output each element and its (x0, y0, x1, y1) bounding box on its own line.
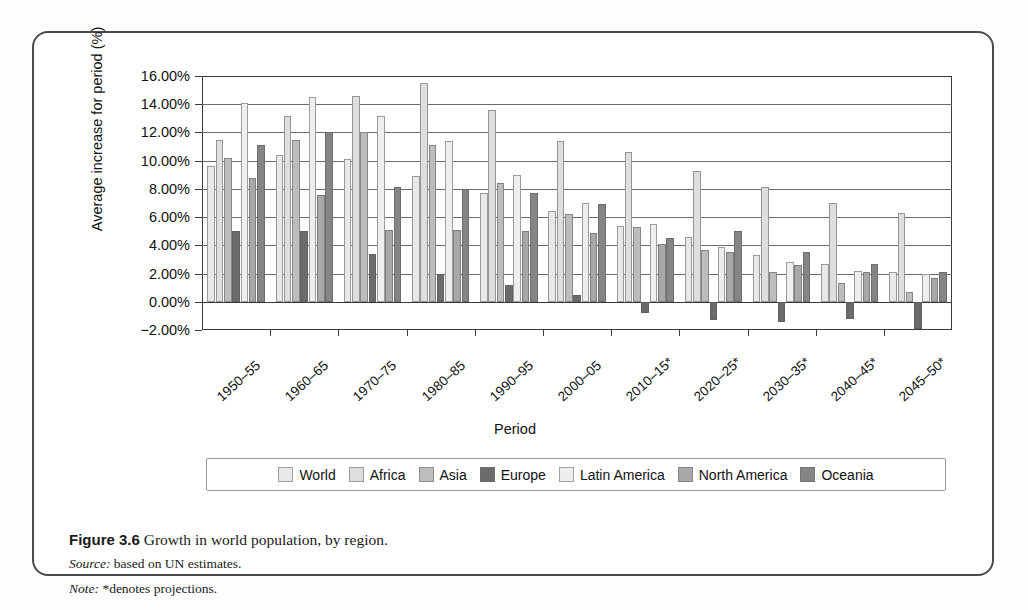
bar (922, 274, 930, 302)
y-axis-tick-label: −2.00% (140, 322, 190, 338)
bar (854, 271, 862, 302)
plot-region: −2.00%0.00%2.00%4.00%6.00%8.00%10.00%12.… (202, 76, 952, 330)
legend-swatch-icon (278, 467, 293, 482)
y-axis-tick-label: 8.00% (149, 181, 190, 197)
bar (701, 250, 709, 302)
bar (557, 141, 565, 302)
y-axis-tick-label: 4.00% (149, 237, 190, 253)
bar (846, 302, 854, 319)
bar (803, 252, 811, 301)
legend-swatch-icon (480, 467, 495, 482)
y-axis-tick (195, 189, 202, 190)
bar (394, 187, 402, 301)
bar (207, 166, 215, 301)
x-axis-tick-label: 2010–15* (623, 354, 676, 404)
legend-swatch-icon (349, 467, 364, 482)
bar (693, 171, 701, 302)
bar-group (202, 76, 270, 330)
x-axis-tick-label: 1980–85 (419, 358, 468, 404)
y-axis-tick (195, 76, 202, 77)
y-axis-tick (195, 302, 202, 303)
bar (565, 214, 573, 301)
y-axis-tick-label: 2.00% (149, 266, 190, 282)
y-axis-tick-label: 12.00% (141, 124, 190, 140)
bar (505, 285, 513, 302)
y-axis-tick (195, 330, 202, 331)
legend-item[interactable]: Asia (419, 467, 467, 483)
x-axis-tick-label: 2030–35* (760, 354, 813, 404)
bar (641, 302, 649, 313)
bar (480, 193, 488, 302)
bar-group (611, 76, 679, 330)
bar-group (475, 76, 543, 330)
legend-item[interactable]: Oceania (800, 467, 873, 483)
y-axis-tick (195, 104, 202, 105)
bar (513, 175, 521, 302)
legend-item[interactable]: Africa (349, 467, 406, 483)
bar (573, 295, 581, 302)
bar-groups (202, 76, 952, 330)
bar (385, 230, 393, 302)
bar (666, 238, 674, 302)
bar-group (338, 76, 406, 330)
bar (530, 193, 538, 302)
y-axis-tick-label: 0.00% (149, 294, 190, 310)
caption-main: Figure 3.6 Growth in world population, b… (69, 531, 769, 549)
legend-swatch-icon (678, 467, 693, 482)
bar (931, 278, 939, 302)
bar (821, 264, 829, 302)
legend-label: Europe (501, 467, 546, 483)
bar (838, 283, 846, 301)
y-axis-tick (195, 245, 202, 246)
chart-area: Average increase for period (%) −2.00%0.… (34, 33, 996, 463)
bar-group (543, 76, 611, 330)
bar (232, 231, 240, 302)
caption-note: Note: *denotes projections. (69, 581, 769, 597)
x-axis-tick-label: 2040–45* (828, 354, 881, 404)
legend-swatch-icon (419, 467, 434, 482)
bar (753, 255, 761, 302)
bar (871, 264, 879, 302)
caption-source: Source: based on UN estimates. (69, 556, 769, 572)
bar (309, 97, 317, 302)
x-axis-tick-label: 1950–55 (214, 358, 263, 404)
bar (412, 176, 420, 302)
bar-group (884, 76, 952, 330)
bar (685, 237, 693, 302)
bar (352, 96, 360, 302)
bar (778, 302, 786, 322)
figure-caption: Figure 3.6 Growth in world population, b… (69, 531, 769, 606)
bar (522, 231, 530, 302)
y-axis-tick-label: 16.00% (141, 68, 190, 84)
legend-label: Asia (440, 467, 467, 483)
y-axis-tick (195, 274, 202, 275)
x-axis-tick-labels: 1950–551960–651970–751980–851990–952000–… (202, 333, 952, 428)
legend-item[interactable]: Europe (480, 467, 546, 483)
bar (898, 213, 906, 302)
note-text: *denotes projections. (102, 581, 217, 596)
legend-label: World (299, 467, 335, 483)
legend-item[interactable]: North America (678, 467, 788, 483)
bar (292, 140, 300, 302)
bar (241, 103, 249, 302)
x-axis-tick-label: 2045–50* (896, 354, 949, 404)
bar (453, 230, 461, 302)
bar (761, 187, 769, 301)
bar (718, 247, 726, 302)
bar (300, 231, 308, 302)
bar (863, 272, 871, 302)
legend-item[interactable]: Latin America (559, 467, 665, 483)
y-axis-tick-label: 10.00% (141, 153, 190, 169)
y-axis-tick (195, 161, 202, 162)
bar (369, 254, 377, 302)
bar (906, 292, 914, 302)
legend-swatch-icon (800, 467, 815, 482)
figure-number: Figure 3.6 (69, 531, 140, 548)
legend-item[interactable]: World (278, 467, 335, 483)
bar (617, 226, 625, 302)
bar (224, 158, 232, 302)
y-axis-tick-label: 6.00% (149, 209, 190, 225)
x-axis-tick-label: 1990–95 (487, 358, 536, 404)
legend-label: North America (699, 467, 788, 483)
y-axis-tick-label: 14.00% (141, 96, 190, 112)
